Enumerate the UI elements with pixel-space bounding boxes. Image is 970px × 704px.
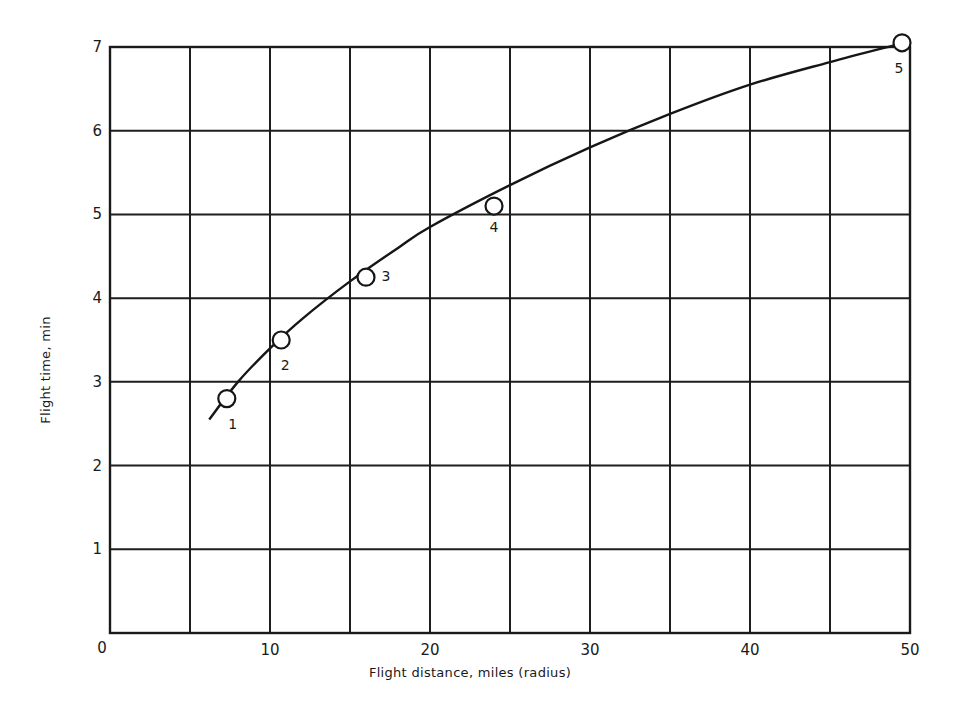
data-point: 1 bbox=[218, 390, 237, 432]
x-tick-label: 10 bbox=[260, 641, 279, 659]
y-tick-label: 3 bbox=[92, 373, 102, 391]
fitted-curve bbox=[209, 45, 894, 419]
point-label: 1 bbox=[228, 416, 237, 432]
x-tick-label: 20 bbox=[420, 641, 439, 659]
circle-marker-icon bbox=[273, 332, 290, 349]
x-tick-label: 50 bbox=[900, 641, 919, 659]
x-tick-label: 30 bbox=[580, 641, 599, 659]
data-point: 2 bbox=[273, 332, 290, 374]
x-tick-label: 40 bbox=[740, 641, 759, 659]
point-label: 4 bbox=[490, 219, 499, 235]
x-axis-label: Flight distance, miles (radius) bbox=[369, 665, 571, 680]
point-label: 2 bbox=[281, 357, 290, 373]
y-axis-ticks: 1234567 bbox=[92, 38, 102, 558]
data-point: 5 bbox=[894, 34, 911, 76]
y-tick-label: 2 bbox=[92, 457, 102, 475]
grid-lines bbox=[110, 47, 910, 633]
data-point: 4 bbox=[486, 198, 503, 236]
circle-marker-icon bbox=[894, 34, 911, 51]
point-label: 3 bbox=[382, 268, 391, 284]
point-label: 5 bbox=[895, 60, 904, 76]
y-tick-label: 6 bbox=[92, 122, 102, 140]
circle-marker-icon bbox=[486, 198, 503, 215]
circle-marker-icon bbox=[358, 269, 375, 286]
data-point: 3 bbox=[358, 268, 391, 286]
y-tick-label: 7 bbox=[92, 38, 102, 56]
origin-tick-label: 0 bbox=[97, 639, 107, 657]
y-tick-label: 5 bbox=[92, 205, 102, 223]
circle-marker-icon bbox=[218, 390, 235, 407]
chart: 1020304050 1234567 0 12345 Flight distan… bbox=[0, 0, 970, 704]
data-points: 12345 bbox=[218, 34, 910, 431]
y-tick-label: 4 bbox=[92, 289, 102, 307]
x-axis-ticks: 1020304050 bbox=[260, 641, 919, 659]
y-axis-label: Flight time, min bbox=[38, 316, 53, 423]
y-tick-label: 1 bbox=[92, 540, 102, 558]
